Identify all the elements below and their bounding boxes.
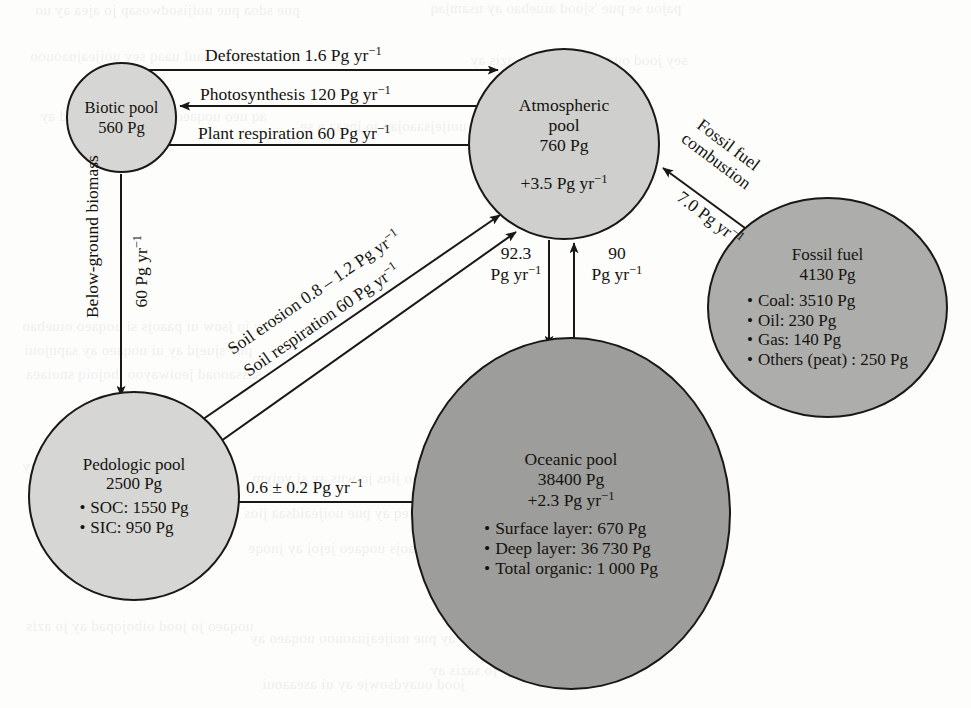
list-item: Surface layer: 670 Pg <box>484 518 658 538</box>
list-item: Deep layer: 36 730 Pg <box>484 538 658 558</box>
atmospheric-pool-stock: 760 Pg <box>539 135 588 155</box>
list-item: Gas: 140 Pg <box>747 330 908 350</box>
oceanic-pool-delta: +2.3 Pg yr−1 <box>528 489 615 510</box>
oceanic-pool-stock: 38400 Pg <box>538 469 605 489</box>
pedologic-pool-stock: 2500 Pg <box>106 474 162 494</box>
atm-ocean-value: 92.3 <box>486 243 546 263</box>
pedologic-breakdown-list: SOC: 1550 Pg SIC: 950 Pg <box>79 498 188 537</box>
label-below-ground-rate: 60 Pg yr−1 <box>130 235 151 308</box>
label-deforestation: Deforestation 1.6 Pg yr−1 <box>205 44 382 65</box>
pedologic-pool-title: Pedologic pool <box>83 455 185 475</box>
ocean-atm-value: 90 <box>584 243 650 263</box>
label-ocean-to-atmosphere-flux: 90 Pg yr−1 <box>584 243 650 284</box>
carbon-cycle-figure: pue sdoa pue uoijisodwosap jo ajea ay uo… <box>0 0 971 708</box>
atmospheric-pool-delta: +3.5 Pg yr−1 <box>521 172 608 193</box>
atm-ocean-unit: Pg yr−1 <box>486 263 546 284</box>
oceanic-breakdown-list: Surface layer: 670 Pg Deep layer: 36 730… <box>484 518 658 579</box>
list-item: SOC: 1550 Pg <box>79 498 188 518</box>
list-item: Others (peat) : 250 Pg <box>747 350 908 370</box>
list-item: SIC: 950 Pg <box>79 518 188 538</box>
biotic-pool-stock: 560 Pg <box>98 118 144 137</box>
node-oceanic-pool[interactable]: Oceanic pool 38400 Pg +2.3 Pg yr−1 Surfa… <box>411 337 731 690</box>
fossil-fuel-stock: 4130 Pg <box>799 265 855 285</box>
atmospheric-pool-title: Atmospheric pool <box>519 95 609 136</box>
oceanic-pool-title: Oceanic pool <box>525 449 618 469</box>
ocean-atm-unit: Pg yr−1 <box>584 263 650 284</box>
list-item: Total organic: 1 000 Pg <box>484 558 658 578</box>
label-plant-respiration: Plant respiration 60 Pg yr−1 <box>198 122 390 143</box>
label-atmosphere-to-ocean-flux: 92.3 Pg yr−1 <box>486 243 546 284</box>
fossil-fuel-breakdown-list: Coal: 3510 Pg Oil: 230 Pg Gas: 140 Pg Ot… <box>747 291 908 370</box>
label-photosynthesis: Photosynthesis 120 Pg yr−1 <box>200 83 391 104</box>
biotic-pool-title: Biotic pool <box>85 98 159 117</box>
label-pedologic-to-ocean-flux: 0.6 ± 0.2 Pg yr−1 <box>246 476 363 497</box>
label-below-ground-biomass: Below-ground biomass <box>82 155 102 318</box>
list-item: Coal: 3510 Pg <box>747 291 908 311</box>
node-atmospheric-pool[interactable]: Atmospheric pool 760 Pg +3.5 Pg yr−1 <box>468 48 660 240</box>
fossil-fuel-title: Fossil fuel <box>792 245 863 265</box>
node-pedologic-pool[interactable]: Pedologic pool 2500 Pg SOC: 1550 Pg SIC:… <box>28 391 240 601</box>
list-item: Oil: 230 Pg <box>747 311 908 331</box>
